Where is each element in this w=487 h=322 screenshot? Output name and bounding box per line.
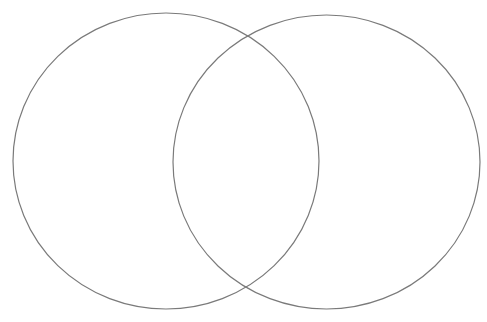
right-set-circle (173, 15, 480, 309)
left-set-circle (13, 13, 319, 309)
venn-diagram (0, 0, 487, 322)
